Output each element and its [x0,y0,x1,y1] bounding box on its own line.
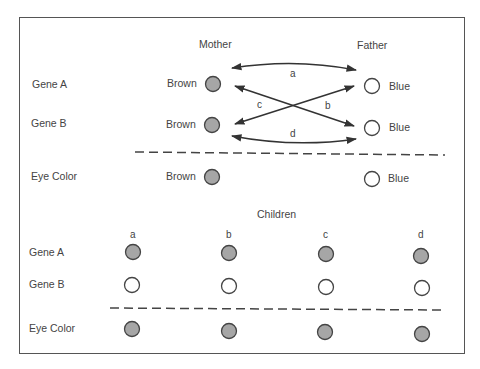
child-d-gene-a-dot [414,249,429,264]
child-c-gene-b-dot [319,280,334,295]
cross-arrow-d [232,136,356,143]
mother-gene-b-dot [205,118,220,133]
child-b-eye-color-dot [222,324,237,339]
children-separator [110,308,444,310]
father-gene-a-dot [365,79,380,94]
child-b-gene-b-dot [222,279,237,294]
child-d-eye-color-dot [415,327,430,342]
child-a-gene-a-dot [126,245,141,260]
child-c-eye-color-dot [318,325,333,340]
child-c-gene-a-dot [319,247,334,262]
parent-separator [135,152,445,155]
mother-eye-color-dot [205,170,220,185]
mother-gene-a-dot [206,77,221,92]
child-a-gene-b-dot [125,278,140,293]
cross-arrow-a [232,63,356,70]
father-eye-color-dot [365,172,380,187]
child-d-gene-b-dot [415,281,430,296]
diagram-graphics [0,0,480,369]
child-a-eye-color-dot [125,322,140,337]
child-b-gene-a-dot [222,246,237,261]
father-gene-b-dot [365,121,380,136]
